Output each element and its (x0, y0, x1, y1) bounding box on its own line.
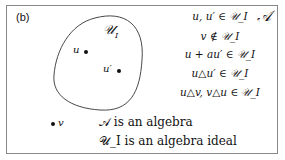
point-v-label: v (58, 117, 64, 128)
relation: u△v, v△u ∈ 𝒰_I (150, 86, 285, 99)
set-label: 𝒰I (103, 22, 118, 40)
point-v (51, 122, 55, 126)
point-u-label: u (73, 44, 79, 55)
point-u-prime-label: u′ (103, 63, 112, 74)
point-u-prime (117, 69, 121, 73)
relation: v ∉ 𝒰_I (150, 30, 285, 43)
relation: u, u′ ∈ 𝒰_I (150, 10, 285, 23)
relation: u△u′ ∈ 𝒰_I (150, 67, 285, 80)
set-ui-boundary (54, 16, 142, 110)
relation: u + au′ ∈ 𝒰_I (150, 48, 285, 61)
panel-label: (b) (16, 11, 29, 23)
statement: 𝒜 is an algebra (99, 115, 193, 129)
point-u (84, 50, 88, 54)
statement: 𝒰_I is an algebra ideal (99, 134, 237, 148)
